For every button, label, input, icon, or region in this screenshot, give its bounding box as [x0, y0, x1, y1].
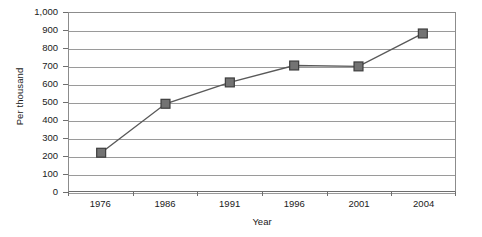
data-point-marker [354, 62, 363, 71]
series-line-per-thousand [69, 13, 455, 191]
x-axis-tick-label: 2001 [329, 198, 389, 210]
y-axis-tick-label: 200 [20, 151, 58, 161]
y-axis-tick-label: 0 [20, 187, 58, 197]
y-axis-tick-label: 900 [20, 25, 58, 35]
data-point-marker [161, 99, 170, 108]
data-point-marker [97, 148, 106, 157]
y-axis-tick-labels: 01002003004005006007008009001,000 [20, 12, 58, 192]
y-axis-tick-label: 600 [20, 79, 58, 89]
y-axis-tick-label: 400 [20, 115, 58, 125]
data-point-marker [418, 29, 427, 38]
x-axis-tick-label: 1991 [200, 198, 260, 210]
line-chart: Per thousand 010020030040050060070080090… [0, 0, 482, 237]
data-point-marker [290, 61, 299, 70]
x-axis-tick-label: 1996 [264, 198, 324, 210]
x-axis-tick [455, 192, 456, 196]
x-axis-tick-label: 1986 [135, 198, 195, 210]
x-axis-tick-label: 1976 [70, 198, 130, 210]
y-axis-tick-label: 500 [20, 97, 58, 107]
x-axis-tick [68, 192, 69, 196]
x-axis-tick-label: 2004 [394, 198, 454, 210]
x-axis-tick [327, 192, 328, 196]
plot-area [68, 12, 456, 192]
y-axis-tick-label: 300 [20, 133, 58, 143]
x-axis-title: Year [68, 216, 456, 227]
x-axis-ticks [68, 192, 456, 197]
x-axis-tick [133, 192, 134, 196]
y-axis-tick-label: 1,000 [20, 7, 58, 17]
x-axis-tick [391, 192, 392, 196]
series-line [101, 33, 423, 152]
x-axis-tick-labels: 197619861991199620012004 [68, 198, 456, 212]
y-axis-tick-label: 800 [20, 43, 58, 53]
x-axis-tick [197, 192, 198, 196]
data-point-marker [225, 78, 234, 87]
y-axis-tick-label: 100 [20, 169, 58, 179]
x-axis-tick [262, 192, 263, 196]
y-axis-tick-label: 700 [20, 61, 58, 71]
